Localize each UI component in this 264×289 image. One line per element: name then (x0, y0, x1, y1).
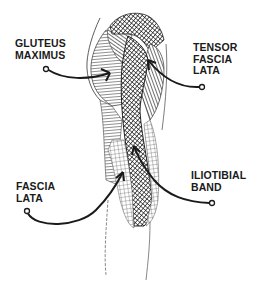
label-line: GLUTEUS (15, 38, 66, 50)
label-line: TENSOR (193, 42, 237, 54)
label-line: MAXIMUS (15, 50, 66, 62)
anatomy-diagram: GLUTEUS MAXIMUS TENSOR FASCIA LATA FASCI… (0, 0, 264, 289)
thigh-outline-right (146, 222, 150, 280)
label-line: BAND (191, 182, 246, 194)
thigh-outline-left (105, 200, 108, 275)
label-line: ILIOTIBIAL (191, 170, 246, 182)
label-line: FASCIA (16, 181, 55, 193)
label-iliotibial-band: ILIOTIBIAL BAND (191, 170, 246, 193)
label-fascia-lata: FASCIA LATA (16, 181, 55, 204)
label-tensor-fascia-lata: TENSOR FASCIA LATA (193, 42, 237, 77)
label-gluteus-maximus: GLUTEUS MAXIMUS (15, 38, 66, 61)
label-line: LATA (193, 65, 237, 77)
label-line: LATA (16, 193, 55, 205)
